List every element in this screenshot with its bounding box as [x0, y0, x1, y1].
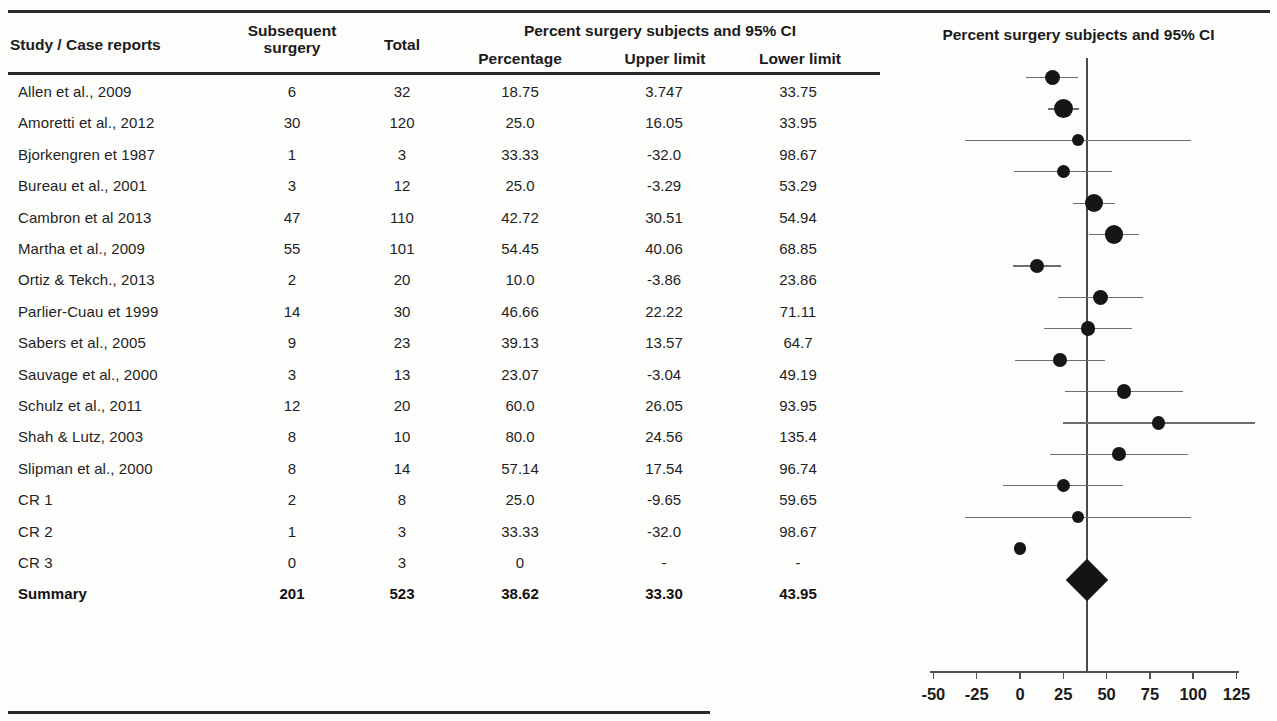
cell-lower-limit: 93.95 [728, 390, 868, 421]
cell-percentage: 23.07 [452, 359, 588, 390]
study-point-marker [1030, 259, 1044, 273]
cell-lower-limit: 23.86 [728, 264, 868, 295]
forest-plot-row [880, 502, 1277, 533]
study-point-marker [1117, 384, 1131, 398]
cell-study: Sabers et al., 2005 [18, 327, 233, 358]
forest-plot-row [880, 125, 1277, 156]
table-row: Ortiz & Tekch., 201322010.0-3.8623.86 [0, 264, 880, 295]
table-row: CR 12825.0-9.6559.65 [0, 484, 880, 515]
table-row: Martha et al., 20095510154.4540.0668.85 [0, 233, 880, 264]
x-axis-tick-label: 50 [1084, 685, 1130, 704]
cell-subsequent-surgery: 2 [228, 264, 356, 295]
cell-subsequent-surgery: 55 [228, 233, 356, 264]
study-point-marker [1057, 165, 1071, 179]
cell-study: Summary [18, 578, 233, 609]
x-axis-tick-label: 125 [1214, 685, 1260, 704]
forest-plot-row [880, 533, 1277, 564]
cell-subsequent-surgery: 14 [228, 296, 356, 327]
cell-total: 23 [360, 327, 444, 358]
study-point-marker [1057, 479, 1070, 492]
forest-plot-row [880, 313, 1277, 344]
table-row: CR 21333.33-32.098.67 [0, 516, 880, 547]
cell-total: 13 [360, 359, 444, 390]
cell-total: 8 [360, 484, 444, 515]
cell-percentage: 33.33 [452, 139, 588, 170]
forest-plot-row [880, 439, 1277, 470]
cell-upper-limit: -3.86 [600, 264, 728, 295]
forest-plot-row [880, 62, 1277, 93]
cell-study: CR 2 [18, 516, 233, 547]
cell-percentage: 60.0 [452, 390, 588, 421]
cell-study: Martha et al., 2009 [18, 233, 233, 264]
x-axis-tick-label: 0 [997, 685, 1043, 704]
x-axis-tick [933, 671, 935, 679]
table-row-summary: Summary20152338.6233.3043.95 [0, 578, 880, 609]
cell-study: Sauvage et al., 2000 [18, 359, 233, 390]
cell-subsequent-surgery: 2 [228, 484, 356, 515]
cell-total: 14 [360, 453, 444, 484]
table-header-row: Study / Case reports Subsequentsurgery T… [0, 14, 880, 72]
cell-upper-limit: 3.747 [600, 76, 728, 107]
cell-lower-limit: 64.7 [728, 327, 868, 358]
study-point-marker [1014, 542, 1026, 554]
cell-study: Allen et al., 2009 [18, 76, 233, 107]
table-row: Sabers et al., 200592339.1313.5764.7 [0, 327, 880, 358]
column-header-subsequent-surgery-line2: surgery [264, 39, 321, 56]
cell-subsequent-surgery: 12 [228, 390, 356, 421]
table-row: Bjorkengren et 19871333.33-32.098.67 [0, 139, 880, 170]
cell-subsequent-surgery: 30 [228, 107, 356, 138]
cell-upper-limit: 13.57 [600, 327, 728, 358]
cell-percentage: 25.0 [452, 484, 588, 515]
cell-total: 20 [360, 390, 444, 421]
cell-total: 3 [360, 516, 444, 547]
cell-lower-limit: 43.95 [728, 578, 868, 609]
cell-total: 3 [360, 547, 444, 578]
cell-lower-limit: 59.65 [728, 484, 868, 515]
study-point-marker [1054, 99, 1073, 118]
cell-total: 120 [360, 107, 444, 138]
cell-percentage: 33.33 [452, 516, 588, 547]
cell-lower-limit: 96.74 [728, 453, 868, 484]
x-axis-tick [1149, 671, 1151, 679]
cell-lower-limit: 54.94 [728, 202, 868, 233]
table-header-rule [8, 72, 880, 75]
forest-plot-row [880, 470, 1277, 501]
x-axis-tick [1192, 671, 1194, 679]
summary-diamond-marker [1066, 559, 1108, 601]
table-row: Amoretti et al., 20123012025.016.0533.95 [0, 107, 880, 138]
cell-study: Ortiz & Tekch., 2013 [18, 264, 233, 295]
x-axis-tick [1063, 671, 1065, 679]
cell-upper-limit: -3.29 [600, 170, 728, 201]
study-point-marker [1072, 511, 1084, 523]
cell-subsequent-surgery: 3 [228, 170, 356, 201]
cell-upper-limit: -9.65 [600, 484, 728, 515]
cell-subsequent-surgery: 3 [228, 359, 356, 390]
page-bottom-rule [8, 711, 710, 714]
cell-percentage: 38.62 [452, 578, 588, 609]
study-point-marker [1105, 225, 1123, 243]
table-row: CR 3030-- [0, 547, 880, 578]
forest-plot-row [880, 156, 1277, 187]
cell-upper-limit: -32.0 [600, 516, 728, 547]
cell-percentage: 39.13 [452, 327, 588, 358]
cell-study: CR 1 [18, 484, 233, 515]
column-header-percentage: Percentage [450, 50, 590, 67]
cell-study: Cambron et al 2013 [18, 202, 233, 233]
cell-lower-limit: 33.75 [728, 76, 868, 107]
x-axis-tick-label: 75 [1127, 685, 1173, 704]
cell-subsequent-surgery: 0 [228, 547, 356, 578]
cell-upper-limit: 40.06 [600, 233, 728, 264]
forest-plot-row [880, 376, 1277, 407]
study-point-marker [1093, 290, 1108, 305]
cell-study: CR 3 [18, 547, 233, 578]
column-header-subsequent-surgery: Subsequentsurgery [228, 22, 356, 57]
cell-percentage: 25.0 [452, 170, 588, 201]
column-header-group-percent-ci: Percent surgery subjects and 95% CI [450, 22, 870, 39]
cell-lower-limit: 53.29 [728, 170, 868, 201]
x-axis-tick-label: -25 [954, 685, 1000, 704]
cell-upper-limit: 22.22 [600, 296, 728, 327]
column-header-study: Study / Case reports [10, 36, 225, 53]
cell-upper-limit: 24.56 [600, 421, 728, 452]
column-header-lower-limit: Lower limit [730, 50, 870, 67]
cell-upper-limit: 30.51 [600, 202, 728, 233]
